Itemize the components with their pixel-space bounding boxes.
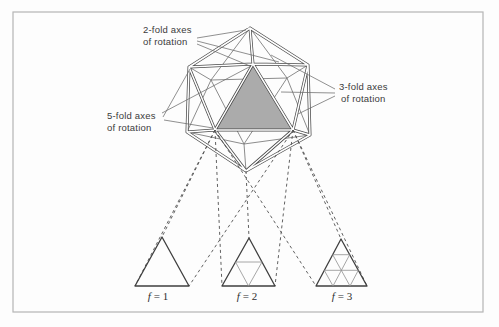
svg-text:of rotation: of rotation [107,122,151,133]
label-2fold-axes: 2-fold axes of rotation [143,24,192,47]
svg-text:of rotation: of rotation [341,93,385,104]
svg-text:3-fold axes: 3-fold axes [339,81,388,92]
icosahedron-symmetry-diagram: 2-fold axes of rotation 5-fold axes of r… [0,0,499,327]
label-3fold-axes: 3-fold axes of rotation [339,81,388,104]
svg-text:of rotation: of rotation [143,36,187,47]
figure-page: 2-fold axes of rotation 5-fold axes of r… [0,0,499,327]
label-5fold-axes: 5-fold axes of rotation [107,110,156,133]
svg-text:2-fold axes: 2-fold axes [143,24,192,35]
svg-text:5-fold axes: 5-fold axes [107,110,156,121]
figure-border [13,12,483,312]
